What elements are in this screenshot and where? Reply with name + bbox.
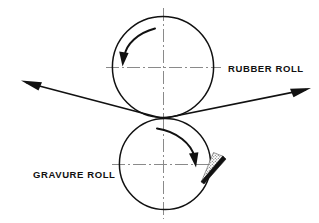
gravure-roll-rotation-arc [157, 129, 195, 158]
rubber-roll-label: RUBBER ROLL [228, 63, 304, 74]
gravure-roll-label: GRAVURE ROLL [33, 169, 116, 180]
rubber-roll-rotation-arrowhead-icon [119, 52, 128, 67]
gravure-roll-rotation-arrowhead-icon [189, 152, 198, 167]
doctor-blade [201, 153, 226, 185]
gravure-nip-diagram: RUBBER ROLL GRAVURE ROLL [0, 0, 319, 223]
gravure-roll-centerlines [112, 118, 218, 219]
web-exit-arrowhead-icon [290, 88, 311, 97]
rubber-roll-rotation-arc [125, 29, 156, 57]
web-entry-arrowhead-icon [21, 81, 42, 91]
web-path [21, 81, 311, 119]
diagram-canvas: RUBBER ROLL GRAVURE ROLL [0, 0, 319, 223]
web-entry-line [26, 83, 162, 119]
web-exit-line [164, 90, 306, 119]
